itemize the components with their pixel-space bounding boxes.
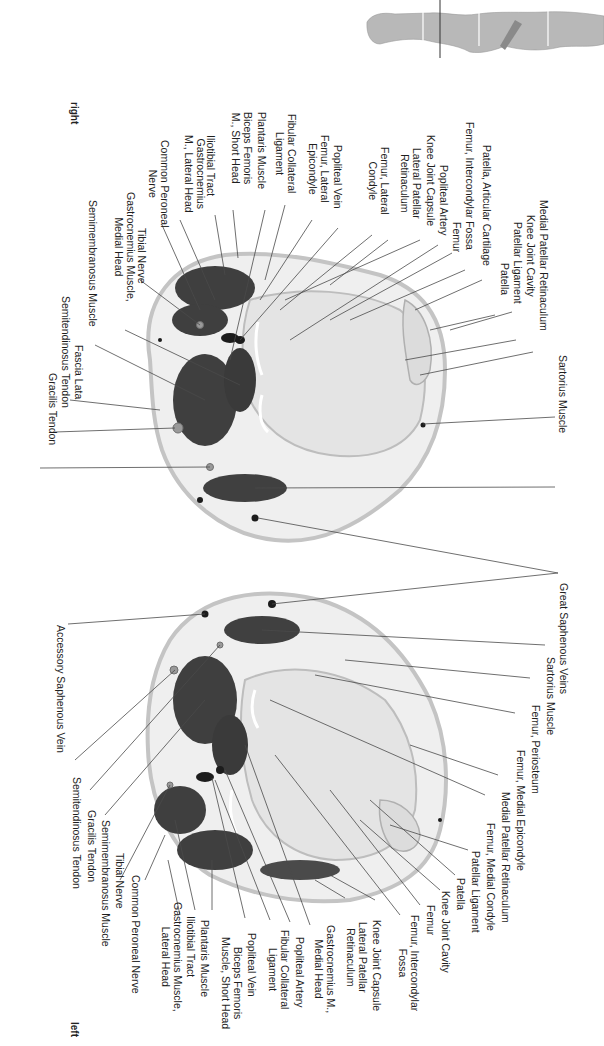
- label-accessory-saphenous-vein: Accessory Saphenous Vein: [55, 625, 67, 753]
- atlas-page: right left Sartorius Muscle Medial Patel…: [0, 0, 604, 1046]
- label-biceps-femoris-short-head-upper: Biceps Femoris M., Short Head: [230, 112, 253, 184]
- label-femur-intercondylar-fossa-upper: Femur, Intercondylar Fossa: [464, 122, 476, 250]
- label-great-saphenous-veins: Great Saphenous Veins: [558, 583, 570, 694]
- orientation-label-right: right: [69, 102, 80, 124]
- label-patellar-ligament-lower: Patellar Ligament: [470, 851, 482, 933]
- label-fibular-collateral-ligament-lower: Fibular Collateral Ligament: [267, 930, 290, 1009]
- label-gracilis-tendon-lower: Gracilis Tendon: [86, 810, 98, 882]
- label-tibial-nerve-upper: Tibial Nerve: [136, 228, 148, 284]
- label-patella-lower: Patella: [455, 878, 467, 910]
- label-common-peroneal-nerve-lower: Common Peroneal Nerve: [130, 875, 142, 993]
- label-femur-lower: Femur: [425, 905, 437, 935]
- label-plantaris-muscle-lower: Plantaris Muscle: [199, 920, 211, 997]
- label-iliotibial-tract-lower: Iliotibial Tract: [185, 916, 197, 977]
- label-popliteal-artery-upper: Popliteal Artery: [438, 165, 450, 236]
- body-silhouette-thumbnail: [367, 0, 604, 58]
- label-plantaris-muscle-upper: Plantaris Muscle: [256, 112, 268, 189]
- label-femur-lateral-condyle: Femur, Lateral Condyle: [367, 147, 390, 215]
- label-femur-lateral-epicondyle: Femur, Lateral Epicondyle: [307, 135, 330, 203]
- label-gastrocnemius-lateral-head-lower: Gastrocnemius Muscle, Lateral Head: [160, 902, 183, 1012]
- label-popliteal-vein-lower: Popliteal Vein: [246, 933, 258, 997]
- cross-section-artwork: [0, 0, 604, 1046]
- label-common-peroneal-nerve-upper: Common Peroneal Nerve: [147, 140, 170, 228]
- label-knee-joint-capsule-lower: Knee Joint Capsule: [371, 920, 383, 1011]
- label-fibular-collateral-ligament-upper: Fibular Collateral Ligament: [274, 114, 297, 193]
- label-lateral-patellar-retinaculum-lower: Lateral Patellar Retinaculum: [345, 922, 368, 993]
- label-lateral-patellar-retinaculum-upper: Lateral Patellar Retinaculum: [399, 148, 422, 219]
- label-patellar-ligament-upper: Patellar Ligament: [512, 222, 524, 304]
- label-biceps-femoris-short-head-lower: Biceps Femoris Muscle, Short Head: [220, 937, 243, 1029]
- orientation-label-left: left: [69, 1022, 80, 1037]
- label-knee-joint-cavity-upper: Knee Joint Cavity: [525, 215, 537, 297]
- label-tibial-nerve-lower: Tibial Nerve: [114, 853, 126, 909]
- label-femur-upper: Femur: [451, 222, 463, 252]
- label-patella-articular-cartilage: Patella, Articular Cartilage: [481, 145, 493, 266]
- label-gastrocnemius-medial-head-lower: Gastrocnemius M., Medial Head: [313, 925, 336, 1013]
- label-semitendinosus-tendon-upper: Semitendinosus Tendon: [60, 296, 72, 408]
- label-medial-patellar-retinaculum-lower: Medial Patellar Retinaculum: [500, 792, 512, 923]
- label-semimembranosus-muscle-upper: Semimembranosus Muscle: [87, 200, 99, 327]
- label-fascia-lata: Fascia Lata: [73, 345, 85, 399]
- label-semimembranosus-muscle-lower: Semimembranosus Muscle: [100, 820, 112, 947]
- label-femur-medial-epicondyle: Femur, Medial Epicondyle: [515, 750, 527, 871]
- label-knee-joint-cavity-lower: Knee Joint Cavity: [440, 891, 452, 973]
- label-popliteal-vein-upper: Popliteal Vein: [332, 145, 344, 209]
- label-patella-upper: Patella: [499, 263, 511, 295]
- label-gracilis-tendon-upper: Gracilis Tendon: [47, 373, 59, 445]
- label-gastrocnemius-medial-head-upper: Gastrocnemius Muscle, Medial Head: [113, 192, 136, 302]
- label-femur-periosteum: Femur, Periosteum: [530, 705, 542, 794]
- label-gastrocnemius-lateral-head-upper: Gastrocnemius M., Lateral Head: [183, 135, 206, 213]
- label-femur-intercondylar-fossa-lower: Femur, Intercondylar Fossa: [397, 915, 420, 1011]
- label-sartorius-muscle-upper: Sartorius Muscle: [557, 355, 569, 433]
- label-medial-patellar-retinaculum-upper: Medial Patellar Retinaculum: [538, 200, 550, 331]
- label-sartorius-muscle-lower: Sartorius Muscle: [545, 657, 557, 735]
- label-femur-medial-condyle: Femur, Medial Condyle: [485, 823, 497, 931]
- label-semitendinosus-tendon-lower: Semitendinosus Tendon: [71, 777, 83, 889]
- label-popliteal-artery-lower: Popliteal Artery: [294, 937, 306, 1008]
- lower-knee-section: [148, 593, 446, 901]
- label-knee-joint-capsule-upper: Knee Joint Capsule: [425, 135, 437, 226]
